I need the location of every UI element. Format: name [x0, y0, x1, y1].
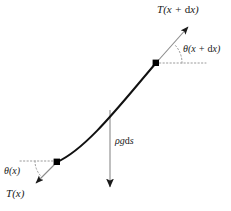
angle-arc-lower	[35, 161, 41, 177]
string-element-free-body-diagram	[0, 0, 231, 211]
label-angle-upper-plus: +	[196, 43, 208, 54]
label-tension-upper-close: )	[195, 3, 199, 15]
diagram-canvas: T(x + dx) θ(x + dx) θ(x) T(x) ρgds	[0, 0, 231, 211]
string-curve	[57, 63, 156, 162]
label-weight-s: s	[130, 135, 134, 146]
angle-arc-upper	[175, 45, 182, 63]
label-angle-lower-close: )	[17, 165, 20, 176]
label-tension-lower-close: )	[21, 187, 25, 199]
node-upper	[153, 60, 159, 66]
label-weight: ρgds	[115, 136, 134, 146]
label-tension-lower: T(x)	[6, 188, 24, 199]
label-tension-upper: T(x + dx)	[157, 4, 199, 15]
node-lower	[54, 159, 60, 165]
label-angle-upper: θ(x + dx)	[183, 44, 220, 54]
label-angle-upper-close: )	[217, 43, 220, 54]
label-tension-upper-plus: +	[172, 3, 185, 15]
tension-arrow-lower	[36, 162, 57, 183]
label-angle-lower: θ(x)	[4, 166, 20, 176]
